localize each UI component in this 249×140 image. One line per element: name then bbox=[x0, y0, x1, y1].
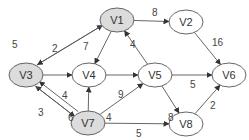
node-v7: V7 bbox=[71, 111, 105, 135]
edge-weight-label: 16 bbox=[212, 37, 224, 48]
graph-diagram: V1V2V3V4V5V6V7V8 5287164582436495 bbox=[0, 0, 249, 140]
edge-weight-label: 8 bbox=[168, 112, 174, 123]
node-label: V3 bbox=[19, 69, 32, 81]
edge-weight-label: 9 bbox=[118, 89, 124, 100]
node-label: V5 bbox=[148, 69, 161, 81]
edge-weight-label: 5 bbox=[190, 79, 196, 90]
edge-v1-v4 bbox=[95, 31, 112, 63]
edge-weight-label: 6 bbox=[68, 112, 74, 123]
nodes-layer: V1V2V3V4V5V6V7V8 bbox=[9, 8, 246, 136]
edge-weight-label: 4 bbox=[62, 90, 68, 101]
edge-weight-label: 4 bbox=[130, 39, 136, 50]
node-v5: V5 bbox=[138, 63, 172, 87]
node-v6: V6 bbox=[212, 63, 246, 87]
node-v3: V3 bbox=[9, 63, 43, 87]
edge-weight-label: 3 bbox=[38, 107, 44, 118]
edge-v1-v3 bbox=[37, 25, 102, 64]
node-label: V2 bbox=[179, 16, 192, 28]
node-v4: V4 bbox=[72, 63, 106, 87]
edge-v7-v8 bbox=[105, 123, 169, 124]
node-v1: V1 bbox=[100, 8, 134, 32]
edge-v5-v8 bbox=[162, 86, 179, 113]
edge-weight-label: 2 bbox=[52, 43, 58, 54]
edge-v7-v3 bbox=[39, 81, 78, 111]
node-label: V1 bbox=[110, 14, 123, 26]
edge-weight-label: 8 bbox=[152, 7, 158, 18]
edges-layer bbox=[36, 20, 221, 123]
edge-weight-label: 7 bbox=[83, 41, 89, 52]
node-label: V7 bbox=[81, 117, 94, 129]
edge-weight-label: 5 bbox=[136, 128, 142, 139]
edge-v5-v1 bbox=[124, 31, 147, 64]
edge-weight-label: 4 bbox=[106, 112, 112, 123]
edge-weight-label: 5 bbox=[12, 39, 18, 50]
node-label: V6 bbox=[222, 69, 235, 81]
node-label: V8 bbox=[179, 118, 192, 130]
edge-v7-v4 bbox=[88, 87, 89, 111]
edge-v8-v6 bbox=[195, 85, 220, 114]
node-v8: V8 bbox=[169, 112, 203, 136]
edge-v1-v2 bbox=[134, 20, 169, 21]
edge-weight-label: 2 bbox=[210, 100, 216, 111]
node-v2: V2 bbox=[169, 10, 203, 34]
node-label: V4 bbox=[82, 69, 95, 81]
